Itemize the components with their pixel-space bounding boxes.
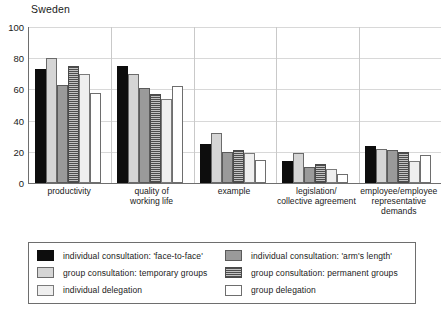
bar-group: [35, 27, 101, 183]
bar: [293, 153, 304, 183]
legend-label: group consultation: permanent groups: [251, 268, 398, 278]
bar: [337, 174, 348, 183]
chart-plot-wrap: 020406080100 productivityquality of work…: [0, 0, 446, 200]
bar: [282, 161, 293, 183]
bar: [57, 85, 68, 183]
bar: [46, 58, 57, 183]
category-separator: [111, 27, 112, 183]
bar: [365, 146, 376, 183]
bar-group: [365, 27, 431, 183]
y-axis-tick-label: 80: [13, 53, 24, 64]
legend-item: individual consultation: 'arm's length': [225, 247, 409, 264]
category-separator: [359, 27, 360, 183]
y-axis-tick-label: 20: [13, 146, 24, 157]
y-axis-tick-labels: 020406080100: [0, 27, 24, 183]
legend-grid: individual consultation: 'face-to-face'i…: [29, 243, 415, 303]
legend-label: individual consultation: 'arm's length': [251, 251, 392, 261]
legend-label: group delegation: [251, 285, 316, 295]
bar-group: [200, 27, 266, 183]
x-axis-tick-label: employee/employee representative demands: [344, 186, 446, 216]
legend-item: group consultation: temporary groups: [37, 264, 221, 281]
y-axis-tick-label: 40: [13, 115, 24, 126]
bar: [79, 74, 90, 183]
bar: [420, 155, 431, 183]
category-separator: [276, 27, 277, 183]
bar: [244, 153, 255, 183]
legend-swatch: [37, 285, 54, 296]
legend-item: individual consultation: 'face-to-face': [37, 247, 221, 264]
legend-swatch: [225, 285, 242, 296]
bar: [326, 169, 337, 183]
bar: [161, 99, 172, 183]
legend-item: group delegation: [225, 282, 409, 299]
bar: [315, 164, 326, 183]
legend-label: individual consultation: 'face-to-face': [63, 251, 203, 261]
legend-swatch: [37, 267, 54, 278]
bar: [255, 160, 266, 183]
legend-item: individual delegation: [37, 282, 221, 299]
bar: [68, 66, 79, 183]
bar: [409, 161, 420, 183]
bar: [200, 144, 211, 183]
chart-legend: individual consultation: 'face-to-face'i…: [28, 242, 416, 304]
x-axis-tick-labels: productivityquality of working lifeexamp…: [28, 186, 440, 232]
category-separator: [194, 27, 195, 183]
y-axis-tick-label: 100: [8, 22, 24, 33]
legend-swatch: [225, 267, 242, 278]
bar: [376, 149, 387, 183]
bar: [150, 94, 161, 183]
bar: [139, 88, 150, 183]
bar: [211, 133, 222, 183]
bar: [222, 152, 233, 183]
legend-swatch: [37, 250, 54, 261]
legend-item: group consultation: permanent groups: [225, 264, 409, 281]
bar: [387, 150, 398, 183]
legend-label: individual delegation: [63, 285, 142, 295]
bar: [90, 93, 101, 183]
bar: [117, 66, 128, 183]
bar: [233, 150, 244, 183]
bar: [304, 167, 315, 183]
legend-swatch: [225, 250, 242, 261]
legend-label: group consultation: temporary groups: [63, 268, 207, 278]
chart-plot-area: [28, 27, 441, 184]
bar: [35, 69, 46, 183]
y-axis-tick-label: 60: [13, 84, 24, 95]
bar: [128, 74, 139, 183]
bar-group: [117, 27, 183, 183]
bar-group: [282, 27, 348, 183]
bar: [172, 86, 183, 183]
bar: [398, 152, 409, 183]
